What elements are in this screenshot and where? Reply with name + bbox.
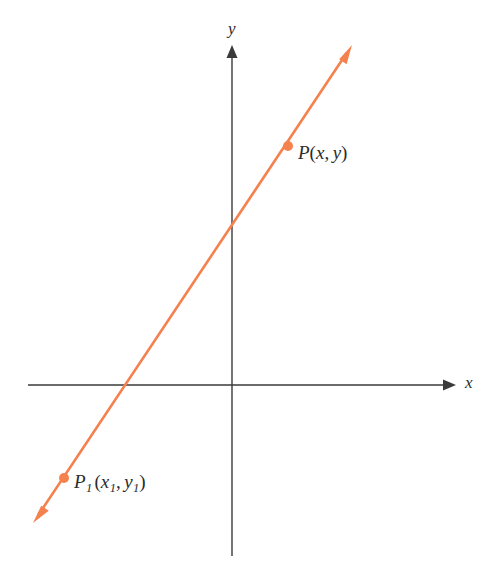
point-marker-p1 [59, 473, 69, 483]
y-axis [227, 45, 238, 556]
point-label-p1: P1(x1,y1) [74, 472, 146, 495]
plotted-line-group [33, 45, 352, 523]
x-axis [28, 380, 456, 391]
point-p1-comma: , [116, 471, 122, 492]
point-p-y: y [333, 142, 341, 163]
x-axis-arrowhead [443, 380, 456, 391]
point-p1-name-subscript: 1 [86, 481, 93, 495]
point-p1-y: y [124, 471, 132, 492]
point-p1-x-subscript: 1 [109, 481, 116, 495]
point-p-close-paren: ) [341, 142, 347, 163]
y-axis-arrowhead [227, 45, 238, 58]
point-p1-name: P [74, 471, 86, 492]
coordinate-plane-svg [0, 0, 485, 584]
x-axis-label: x [465, 374, 473, 391]
point-label-p: P(x,y) [298, 143, 347, 162]
point-p1-close-paren: ) [139, 471, 145, 492]
point-p-name: P [298, 142, 310, 163]
point-p1-x: x [101, 471, 109, 492]
point-p-comma: , [324, 142, 330, 163]
figure-canvas: y x P(x,y) P1(x1,y1) [0, 0, 485, 584]
point-marker-p [283, 141, 293, 151]
line-arrowhead-lower-left [33, 506, 49, 523]
plotted-line [39, 54, 346, 515]
y-axis-label: y [228, 20, 236, 37]
